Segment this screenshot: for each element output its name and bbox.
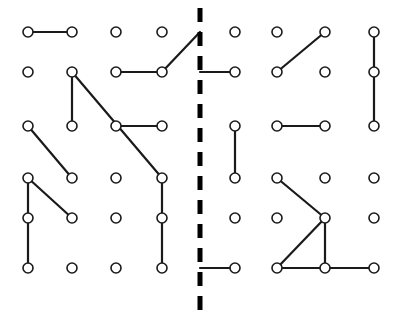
node-r4c5[interactable] — [230, 173, 240, 183]
node-r3c1[interactable] — [23, 121, 33, 131]
node-r4c8[interactable] — [369, 173, 379, 183]
node-r3c5[interactable] — [230, 121, 240, 131]
node-r4c7[interactable] — [320, 173, 330, 183]
node-r5c3[interactable] — [111, 213, 121, 223]
node-r1c5[interactable] — [230, 27, 240, 37]
node-r1c8[interactable] — [369, 27, 379, 37]
node-r5c8[interactable] — [369, 213, 379, 223]
node-r1c4[interactable] — [157, 27, 167, 37]
node-r5c7[interactable] — [320, 213, 330, 223]
node-r6c2[interactable] — [67, 263, 77, 273]
node-r4c1[interactable] — [23, 173, 33, 183]
node-r3c2[interactable] — [67, 121, 77, 131]
node-r6c6[interactable] — [272, 263, 282, 273]
node-r3c8[interactable] — [369, 121, 379, 131]
node-r6c7[interactable] — [320, 263, 330, 273]
node-r2c1[interactable] — [23, 67, 33, 77]
node-r5c5[interactable] — [230, 213, 240, 223]
node-r6c1[interactable] — [23, 263, 33, 273]
node-r2c8[interactable] — [369, 67, 379, 77]
node-r6c5[interactable] — [230, 263, 240, 273]
diagram-canvas — [0, 0, 397, 318]
node-r5c1[interactable] — [23, 213, 33, 223]
node-r1c2[interactable] — [67, 27, 77, 37]
node-r1c6[interactable] — [272, 27, 282, 37]
node-r4c3[interactable] — [111, 173, 121, 183]
node-r3c7[interactable] — [320, 121, 330, 131]
node-r2c4[interactable] — [157, 67, 167, 77]
node-r5c2[interactable] — [67, 213, 77, 223]
node-r2c2[interactable] — [67, 67, 77, 77]
node-r1c7[interactable] — [320, 27, 330, 37]
node-r6c3[interactable] — [111, 263, 121, 273]
node-r2c7[interactable] — [320, 67, 330, 77]
node-r4c6[interactable] — [272, 173, 282, 183]
node-r1c1[interactable] — [23, 27, 33, 37]
node-r2c6[interactable] — [272, 67, 282, 77]
node-r2c5[interactable] — [230, 67, 240, 77]
node-r1c3[interactable] — [111, 27, 121, 37]
node-r5c4[interactable] — [157, 213, 167, 223]
node-r6c4[interactable] — [157, 263, 167, 273]
node-r3c3[interactable] — [111, 121, 121, 131]
node-r2c3[interactable] — [111, 67, 121, 77]
node-r5c6[interactable] — [272, 213, 282, 223]
node-r6c8[interactable] — [369, 263, 379, 273]
node-r3c6[interactable] — [272, 121, 282, 131]
node-r4c4[interactable] — [157, 173, 167, 183]
node-r4c2[interactable] — [67, 173, 77, 183]
node-r3c4[interactable] — [157, 121, 167, 131]
node-grid-diagram — [0, 0, 397, 318]
